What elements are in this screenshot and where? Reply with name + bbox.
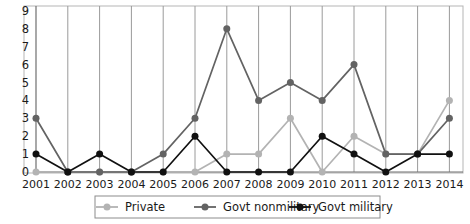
data-point[interactable] — [351, 151, 358, 158]
y-tick-label-0: 0 — [22, 165, 29, 179]
series-line — [36, 100, 449, 172]
gridlines — [68, 6, 450, 172]
data-point[interactable] — [160, 169, 167, 176]
x-tick-label-2004: 2004 — [117, 178, 145, 191]
x-tick-label-2011: 2011 — [340, 178, 368, 191]
x-tick-label-2002: 2002 — [54, 178, 82, 191]
data-point[interactable] — [255, 169, 262, 176]
data-series-group — [33, 25, 453, 175]
data-point[interactable] — [223, 25, 230, 32]
data-point[interactable] — [446, 115, 453, 122]
y-tick-label-8: 8 — [22, 22, 29, 36]
chart-legend[interactable]: PrivateGovt nonmilitaryGovt military — [95, 196, 393, 218]
x-tick-label-2010: 2010 — [308, 178, 336, 191]
data-point[interactable] — [160, 151, 167, 158]
x-tick-label-2008: 2008 — [245, 178, 273, 191]
y-tick-label-7: 7 — [22, 40, 29, 54]
x-tick-label-2014: 2014 — [435, 178, 463, 191]
x-tick-label-2005: 2005 — [149, 178, 177, 191]
data-point[interactable] — [255, 97, 262, 104]
legend-swatch-marker — [104, 204, 111, 211]
y-tick-label-6: 6 — [22, 58, 29, 72]
data-point[interactable] — [33, 151, 40, 158]
legend-swatch-marker — [202, 204, 209, 211]
data-point[interactable] — [128, 169, 135, 176]
x-tick-label-2007: 2007 — [213, 178, 241, 191]
x-tick-label-2012: 2012 — [372, 178, 400, 191]
data-point[interactable] — [351, 133, 358, 140]
y-tick-label-3: 3 — [22, 111, 29, 125]
y-tick-label-9: 9 — [22, 4, 29, 18]
data-point[interactable] — [287, 79, 294, 86]
data-point[interactable] — [192, 133, 199, 140]
data-point[interactable] — [287, 115, 294, 122]
data-point[interactable] — [223, 151, 230, 158]
x-tick-label-2009: 2009 — [276, 178, 304, 191]
x-tick-labels: 2001200220032004200520062007200820092010… — [22, 178, 463, 191]
legend-label: Private — [125, 200, 165, 214]
y-tick-labels: 9876543210 — [22, 4, 29, 179]
data-point[interactable] — [382, 151, 389, 158]
data-point[interactable] — [64, 169, 71, 176]
series-govt-nonmilitary — [33, 25, 453, 175]
chart-svg: 9876543210 20012002200320042005200620072… — [0, 0, 470, 224]
data-point[interactable] — [319, 97, 326, 104]
series-line — [36, 29, 449, 172]
data-point[interactable] — [223, 169, 230, 176]
y-tick-label-2: 2 — [22, 129, 29, 143]
data-point[interactable] — [33, 169, 40, 176]
data-point[interactable] — [255, 151, 262, 158]
data-point[interactable] — [446, 97, 453, 104]
y-tick-label-1: 1 — [22, 147, 29, 161]
data-point[interactable] — [192, 115, 199, 122]
data-point[interactable] — [351, 61, 358, 68]
data-point[interactable] — [96, 169, 103, 176]
x-tick-label-2006: 2006 — [181, 178, 209, 191]
data-point[interactable] — [33, 115, 40, 122]
data-point[interactable] — [192, 169, 199, 176]
data-point[interactable] — [446, 151, 453, 158]
data-point[interactable] — [414, 151, 421, 158]
x-tick-label-2003: 2003 — [86, 178, 114, 191]
y-tick-label-4: 4 — [22, 93, 29, 107]
plot-frame — [24, 6, 463, 173]
y-tick-label-5: 5 — [22, 76, 29, 90]
line-chart: 9876543210 20012002200320042005200620072… — [0, 0, 470, 224]
legend-label: Govt military — [318, 200, 393, 214]
x-tick-label-2013: 2013 — [404, 178, 432, 191]
data-point[interactable] — [382, 169, 389, 176]
data-point[interactable] — [287, 169, 294, 176]
data-point[interactable] — [319, 133, 326, 140]
data-point[interactable] — [96, 151, 103, 158]
data-point[interactable] — [319, 169, 326, 176]
legend-swatch-marker — [297, 204, 304, 211]
series-private — [33, 97, 453, 176]
x-tick-label-2001: 2001 — [22, 178, 50, 191]
chart-page: 9876543210 20012002200320042005200620072… — [0, 0, 470, 224]
